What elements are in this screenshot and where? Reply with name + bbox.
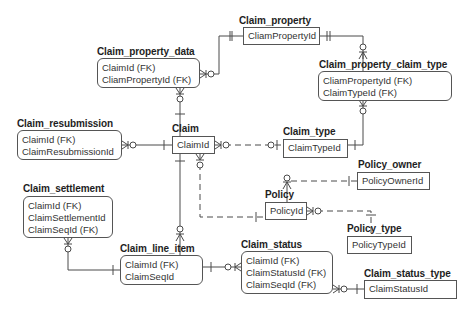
entity-title-claim-property-data: Claim_property_data	[97, 46, 195, 57]
entity-title-claim-status: Claim_status	[241, 239, 302, 250]
attribute: ClaimSettlementId	[28, 212, 108, 224]
attribute: ClaimStatusId (FK)	[246, 267, 328, 279]
attribute: ClaimId	[177, 139, 210, 151]
entity-title-claim-property: Claim_property	[239, 15, 311, 26]
entity-title-policy-owner: Policy_owner	[358, 159, 421, 170]
attribute: PolicyTypeId	[352, 239, 407, 251]
entity-title-policy-type: Policy_type	[347, 223, 401, 234]
attribute: ClaimResubmissionId	[22, 146, 117, 158]
attribute: ClaimId (FK)	[246, 255, 328, 267]
entity-title-policy: Policy	[265, 189, 294, 200]
attribute: ClaimTypeId	[288, 142, 343, 154]
entity-claim-line-item[interactable]: ClaimId (FK) ClaimSeqId	[120, 255, 203, 285]
rel-claim-property-to-property-data	[200, 36, 243, 74]
entity-claim-property[interactable]: CliamPropertyId	[243, 27, 320, 45]
entity-claim-status[interactable]: ClaimId (FK) ClaimStatusId (FK) ClaimSeq…	[241, 251, 333, 294]
entity-claim-status-type[interactable]: ClaimStatusId	[364, 280, 457, 299]
entity-title-claim-status-type: Claim_status_type	[364, 268, 451, 279]
entity-title-claim-type: Claim_type	[283, 126, 335, 137]
attribute: ClaimSeqId (FK)	[28, 224, 108, 236]
entity-policy-type[interactable]: PolicyTypeId	[347, 236, 412, 254]
entity-claim-type[interactable]: ClaimTypeId	[283, 139, 348, 158]
rel-line-item-to-settlement	[68, 238, 120, 270]
entity-title-claim-property-claim-type: Claim_property_claim_type	[319, 59, 447, 70]
attribute: CliamPropertyId (FK)	[323, 75, 447, 87]
attribute: PolicyId	[270, 205, 302, 217]
entity-claim-settlement[interactable]: ClaimId (FK) ClaimSettlementId ClaimSeqI…	[23, 196, 113, 238]
attribute: ClaimTypeId (FK)	[323, 87, 447, 99]
attribute: ClaimStatusId	[369, 283, 452, 295]
entity-title-claim-settlement: Claim_settlement	[23, 183, 104, 194]
attribute: ClaimId (FK)	[22, 134, 117, 146]
entity-title-claim-line-item: Claim_line_item	[120, 243, 195, 254]
attribute: ClaimId (FK)	[125, 259, 198, 271]
entity-claim-property-claim-type[interactable]: CliamPropertyId (FK) ClaimTypeId (FK)	[318, 71, 452, 101]
attribute: ClaimId (FK)	[102, 62, 195, 74]
entity-policy[interactable]: PolicyId	[265, 202, 307, 220]
entity-claim-resubmission[interactable]: ClaimId (FK) ClaimResubmissionId	[17, 130, 122, 160]
entity-title-claim-resubmission: Claim_resubmission	[17, 118, 113, 129]
rel-claim-type-to-cpct	[348, 100, 363, 145]
attribute: CliamPropertyId (FK)	[102, 74, 195, 86]
entity-claim[interactable]: ClaimId	[172, 136, 215, 154]
attribute: CliamPropertyId	[248, 30, 315, 42]
attribute: ClaimSeqId (FK)	[246, 279, 328, 291]
entity-claim-property-data[interactable]: ClaimId (FK) CliamPropertyId (FK)	[97, 58, 200, 88]
entity-title-claim: Claim	[172, 123, 199, 134]
attribute: ClaimSeqId	[125, 271, 198, 283]
rel-policy-to-claim	[200, 154, 265, 217]
attribute: ClaimId (FK)	[28, 200, 108, 212]
entity-policy-owner[interactable]: PolicyOwnerId	[357, 172, 430, 190]
attribute: PolicyOwnerId	[362, 175, 425, 187]
